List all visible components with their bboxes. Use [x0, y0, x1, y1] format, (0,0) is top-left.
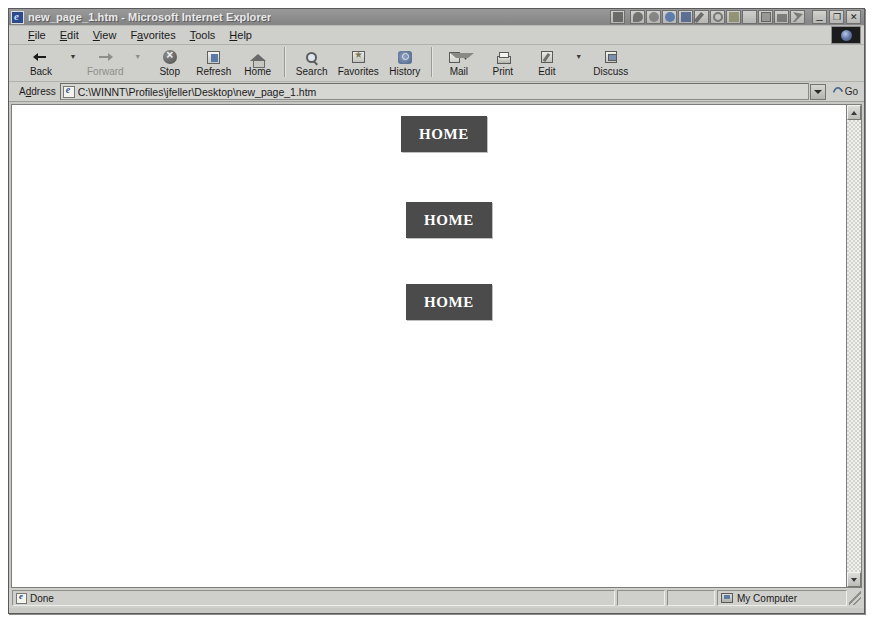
address-dropdown-button[interactable] — [810, 84, 826, 100]
home-icon — [248, 48, 268, 66]
square-icon[interactable] — [758, 10, 773, 24]
forward-button[interactable]: Forward — [83, 47, 128, 77]
restore-icon: ❐ — [830, 11, 843, 23]
favorites-button[interactable]: Favorites — [334, 47, 383, 77]
stop-button[interactable]: Stop — [148, 47, 192, 77]
back-dropdown-button[interactable]: ▼ — [63, 47, 83, 66]
restore-button[interactable]: ❐ — [829, 10, 844, 24]
search-icon — [302, 48, 322, 66]
close-x-icon[interactable] — [742, 10, 757, 24]
stop-button-label: Stop — [159, 67, 180, 77]
print-button-label: Print — [493, 67, 514, 77]
menu-item-tools[interactable]: Tools — [183, 28, 223, 42]
toolbar-separator — [284, 47, 286, 77]
go-button[interactable]: Go — [833, 86, 858, 97]
pen-icon[interactable] — [694, 10, 709, 24]
menu-label-help: elp — [237, 29, 252, 41]
refresh-button[interactable]: Refresh — [192, 47, 236, 77]
grid-icon[interactable] — [610, 10, 625, 24]
back-button[interactable]: Back — [19, 47, 63, 77]
refresh-button-label: Refresh — [196, 67, 231, 77]
toolbar: Back ▼ Forward ▼ Stop Refresh Home — [9, 45, 864, 82]
ie-document-icon — [63, 86, 75, 98]
scrollbar-track[interactable] — [847, 120, 861, 572]
menu-item-view[interactable]: View — [86, 28, 124, 42]
title-bar[interactable]: new_page_1.htm - Microsoft Internet Expl… — [9, 9, 864, 26]
home-button-label: Home — [244, 67, 271, 77]
print-button[interactable]: Print — [481, 47, 525, 77]
history-icon — [395, 48, 415, 66]
menu-item-file[interactable]: File — [21, 28, 53, 42]
browser-window: new_page_1.htm - Microsoft Internet Expl… — [8, 8, 865, 614]
menu-item-favorites[interactable]: Favorites — [123, 28, 182, 42]
circle-icon[interactable] — [710, 10, 725, 24]
edit-button[interactable]: Edit — [525, 47, 569, 77]
status-pane-extra-1 — [617, 590, 665, 606]
menu-item-help[interactable]: Help — [222, 28, 259, 42]
scissors-icon[interactable] — [790, 10, 805, 24]
discuss-icon — [601, 48, 621, 66]
search-button-label: Search — [296, 67, 328, 77]
tray-icon-strip[interactable] — [610, 10, 805, 24]
forward-button-label: Forward — [87, 67, 124, 77]
scroll-down-arrow-icon[interactable] — [847, 572, 861, 587]
home-link-2[interactable]: HOME — [406, 202, 492, 238]
note-icon[interactable] — [726, 10, 741, 24]
menu-label-file: ile — [35, 29, 46, 41]
favorites-star-icon — [348, 48, 368, 66]
edit-button-label: Edit — [538, 67, 555, 77]
window-controls[interactable]: _ ❐ ✕ — [812, 10, 861, 24]
status-message-pane: Done — [12, 590, 615, 606]
internet-explorer-icon[interactable] — [662, 10, 677, 24]
my-computer-icon — [721, 593, 733, 603]
resize-grip[interactable] — [849, 591, 861, 605]
envelope-icon[interactable] — [774, 10, 789, 24]
web-page-document: HOME HOME HOME — [11, 104, 846, 588]
chevron-down-icon: ▼ — [128, 47, 148, 65]
chevron-down-icon: ▼ — [569, 47, 589, 65]
discuss-button-label: Discuss — [593, 67, 628, 77]
back-arrow-icon — [31, 48, 51, 66]
history-button[interactable]: History — [383, 47, 427, 77]
window-document-icon[interactable] — [11, 11, 24, 24]
discuss-button[interactable]: Discuss — [589, 47, 633, 77]
home-link-3[interactable]: HOME — [406, 284, 492, 320]
menu-bar: File Edit View Favorites Tools Help — [9, 26, 864, 45]
security-zone-label: My Computer — [737, 593, 797, 604]
menu-label-favorites: vorites — [143, 29, 175, 41]
word-icon[interactable] — [678, 10, 693, 24]
edit-pencil-icon — [537, 48, 557, 66]
security-zone-pane[interactable]: My Computer — [717, 590, 847, 606]
refresh-icon — [204, 48, 224, 66]
home-link-1[interactable]: HOME — [401, 116, 487, 152]
vertical-scrollbar[interactable] — [846, 104, 862, 588]
go-button-label: Go — [845, 86, 858, 97]
forward-dropdown-button[interactable]: ▼ — [128, 47, 148, 66]
back-button-label: Back — [30, 67, 52, 77]
favorites-button-label: Favorites — [338, 67, 379, 77]
ie-document-icon — [16, 593, 27, 604]
address-value: C:\WINNT\Profiles\jfeller\Desktop\new_pa… — [78, 86, 808, 98]
scroll-up-arrow-icon[interactable] — [847, 105, 861, 120]
edit-dropdown-button[interactable]: ▼ — [569, 47, 589, 66]
address-label: Address — [19, 86, 56, 97]
status-pane-extra-2 — [667, 590, 715, 606]
content-area: HOME HOME HOME — [9, 102, 864, 588]
address-input[interactable]: C:\WINNT\Profiles\jfeller\Desktop\new_pa… — [60, 83, 809, 100]
minimize-button[interactable]: _ — [812, 10, 827, 24]
menu-label-edit: dit — [67, 29, 79, 41]
menu-item-edit[interactable]: Edit — [53, 28, 86, 42]
mail-button[interactable]: ▼ Mail — [437, 47, 481, 77]
search-button[interactable]: Search — [290, 47, 334, 77]
chevron-down-icon: ▼ — [63, 47, 83, 65]
go-arrow-icon — [831, 84, 845, 98]
home-button[interactable]: Home — [236, 47, 280, 77]
magnifier-icon[interactable] — [630, 10, 645, 24]
stop-icon — [160, 48, 180, 66]
clock-icon[interactable] — [646, 10, 661, 24]
toolbar-separator — [431, 47, 433, 77]
mail-icon: ▼ — [449, 48, 469, 66]
address-bar: Address C:\WINNT\Profiles\jfeller\Deskto… — [9, 82, 864, 102]
status-bar: Done My Computer — [9, 588, 864, 608]
close-button[interactable]: ✕ — [846, 10, 861, 24]
